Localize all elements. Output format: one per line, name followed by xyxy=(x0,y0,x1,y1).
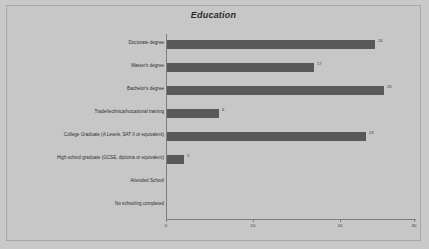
chart-frame: Education Doctorate degree 24 Master's d… xyxy=(6,5,421,241)
category-label: Trade/technical/vocational training xyxy=(94,107,164,116)
x-axis-tick xyxy=(166,219,167,222)
x-axis-tick-label: 30 xyxy=(412,223,417,228)
bar xyxy=(167,109,219,118)
category-label: High school graduate (GCSE, diploma or e… xyxy=(57,153,164,162)
bar xyxy=(167,86,384,95)
x-axis-tick xyxy=(340,219,341,222)
x-axis-line xyxy=(166,219,416,220)
bar xyxy=(167,132,366,141)
bar-row: Trade/technical/vocational training 6 xyxy=(166,103,416,125)
bar-value-label: 25 xyxy=(387,84,392,89)
plot-area: Doctorate degree 24 Master's degree 17 B… xyxy=(166,34,416,226)
x-axis-tick xyxy=(253,219,254,222)
bar-value-label: 2 xyxy=(187,153,189,158)
bar-row: Master's degree 17 xyxy=(166,57,416,79)
chart-title: Education xyxy=(7,10,420,20)
bar-row: Bachelor's degree 25 xyxy=(166,80,416,102)
bar xyxy=(167,63,314,72)
bar-row: High school graduate (GCSE, diploma or e… xyxy=(166,149,416,171)
x-axis-tick-label: 10 xyxy=(251,223,256,228)
category-label: Attended School xyxy=(130,176,164,185)
x-axis-tick xyxy=(414,219,415,222)
bar-value-label: 17 xyxy=(317,61,322,66)
bar-row: Doctorate degree 24 xyxy=(166,34,416,56)
category-label: Master's degree xyxy=(131,61,164,70)
category-label: Doctorate degree xyxy=(129,38,165,47)
category-label: No schooling completed xyxy=(115,199,164,208)
x-axis-tick-label: 0 xyxy=(165,223,167,228)
bar-value-label: 6 xyxy=(222,107,224,112)
bar xyxy=(167,40,375,49)
bar-row: No schooling completed xyxy=(166,195,416,217)
category-label: Bachelor's degree xyxy=(127,84,164,93)
bar-value-label: 23 xyxy=(369,130,374,135)
category-label: College Graduate (A Levels, SAT II or eq… xyxy=(64,130,164,139)
bar-row: College Graduate (A Levels, SAT II or eq… xyxy=(166,126,416,148)
x-axis-tick-label: 20 xyxy=(338,223,343,228)
bar-row: Attended School xyxy=(166,172,416,194)
bar-value-label: 24 xyxy=(378,38,383,43)
bar xyxy=(167,155,184,164)
